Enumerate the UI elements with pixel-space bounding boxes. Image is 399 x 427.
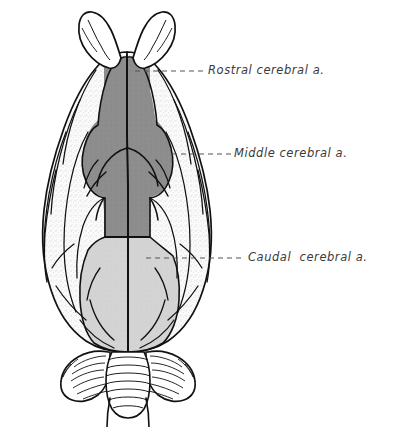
light-gray-region bbox=[80, 237, 179, 352]
longitudinal-fissure bbox=[127, 55, 128, 352]
brain-diagram-svg bbox=[0, 0, 399, 427]
brain-arterial-territory-figure: Rostral cerebral a. Middle cerebral a. C… bbox=[0, 0, 399, 427]
label-middle-cerebral-artery: Middle cerebral a. bbox=[234, 148, 347, 160]
label-rostral-cerebral-artery: Rostral cerebral a. bbox=[208, 65, 324, 77]
label-caudal-cerebral-artery: Caudal cerebral a. bbox=[248, 252, 368, 264]
caudal-cerebral-territory bbox=[80, 237, 179, 352]
cerebellar-vermis bbox=[106, 352, 150, 418]
